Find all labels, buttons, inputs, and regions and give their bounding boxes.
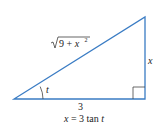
hypotenuse-label: 9 + x 2 <box>51 37 90 49</box>
hyp-exponent: 2 <box>85 37 88 43</box>
angle-label: t <box>46 84 49 95</box>
opposite-label: x <box>147 55 153 66</box>
svg-text:9 + x: 9 + x <box>59 38 80 49</box>
adjacent-label: 3 <box>78 101 83 112</box>
right-angle-marker <box>133 87 145 99</box>
angle-arc <box>40 87 43 99</box>
triangle <box>14 17 145 99</box>
equation-label: x = 3 tan t <box>63 113 104 124</box>
hyp-radicand: 9 + <box>59 38 75 49</box>
triangle-diagram: 9 + x 2 x t 3 x = 3 tan t <box>0 0 162 131</box>
